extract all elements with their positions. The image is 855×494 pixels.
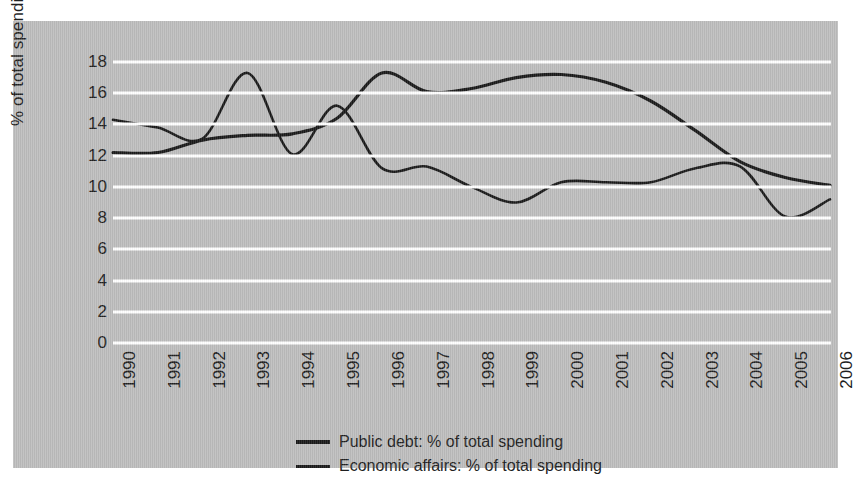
y-tick-14: 14	[88, 114, 107, 134]
gridline-2	[113, 310, 831, 313]
y-tick-12: 12	[88, 146, 107, 166]
chart-figure: % of total spending 181614121086420 1990…	[13, 21, 838, 468]
y-tick-6: 6	[98, 239, 107, 259]
legend-item-0: Public debt: % of total spending	[13, 433, 838, 451]
y-tick-18: 18	[88, 52, 107, 72]
gridline-12	[113, 154, 831, 157]
gridline-10	[113, 185, 831, 188]
series-lines	[113, 62, 831, 343]
y-tick-10: 10	[88, 177, 107, 197]
x-tick-1995: 1995	[344, 351, 364, 389]
x-tick-1998: 1998	[479, 351, 499, 389]
x-tick-1997: 1997	[434, 351, 454, 389]
legend-swatch-icon	[296, 465, 330, 468]
x-tick-1990: 1990	[120, 351, 140, 389]
x-tick-2006: 2006	[837, 351, 855, 389]
chart-legend: Public debt: % of total spendingEconomic…	[13, 433, 838, 481]
x-tick-2000: 2000	[568, 351, 588, 389]
legend-swatch-icon	[296, 440, 330, 444]
x-tick-2004: 2004	[747, 351, 767, 389]
x-axis-tick-labels: 1990199119921993199419951996199719981999…	[113, 351, 831, 421]
x-tick-1992: 1992	[210, 351, 230, 389]
y-axis-tick-labels: 181614121086420	[55, 21, 107, 468]
gridline-16	[113, 92, 831, 95]
x-tick-1994: 1994	[299, 351, 319, 389]
gridline-6	[113, 248, 831, 251]
series-line-0	[113, 72, 830, 185]
gridline-0	[113, 342, 831, 345]
x-tick-2002: 2002	[658, 351, 678, 389]
legend-label: Public debt: % of total spending	[339, 433, 563, 451]
x-tick-1999: 1999	[523, 351, 543, 389]
x-tick-1996: 1996	[389, 351, 409, 389]
y-tick-8: 8	[98, 208, 107, 228]
gridline-14	[113, 123, 831, 126]
legend-label: Economic affairs: % of total spending	[339, 457, 602, 475]
y-axis-title: % of total spending	[8, 0, 28, 126]
y-tick-16: 16	[88, 83, 107, 103]
y-tick-0: 0	[98, 333, 107, 353]
x-tick-1991: 1991	[165, 351, 185, 389]
x-tick-2001: 2001	[613, 351, 633, 389]
y-tick-4: 4	[98, 271, 107, 291]
x-tick-2005: 2005	[792, 351, 812, 389]
x-tick-2003: 2003	[703, 351, 723, 389]
plot-area	[113, 62, 831, 343]
gridline-8	[113, 217, 831, 220]
gridline-18	[113, 61, 831, 64]
y-tick-2: 2	[98, 302, 107, 322]
legend-item-1: Economic affairs: % of total spending	[13, 457, 838, 475]
gridline-4	[113, 279, 831, 282]
x-tick-1993: 1993	[254, 351, 274, 389]
